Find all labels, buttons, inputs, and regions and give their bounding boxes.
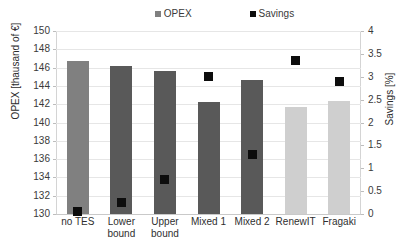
y-axis-right-tick-label: 2 xyxy=(368,118,408,128)
y-axis-left-tick xyxy=(53,159,56,160)
y-axis-left-tick-label: 132 xyxy=(10,191,50,201)
marker-savings[interactable] xyxy=(160,175,169,184)
y-axis-left-tick-label: 134 xyxy=(10,172,50,182)
x-axis-category-label: RenewIT xyxy=(274,216,318,228)
y-axis-right-tick-label: 0 xyxy=(368,209,408,219)
legend-swatch-savings xyxy=(250,11,256,17)
y-axis-left-tick xyxy=(53,68,56,69)
marker-savings[interactable] xyxy=(204,72,213,81)
y-axis-right-tick-label: 0.5 xyxy=(368,186,408,196)
marker-savings[interactable] xyxy=(117,198,126,207)
legend-item-opex[interactable]: OPEX xyxy=(155,9,192,19)
y-axis-left-tick-label: 146 xyxy=(10,63,50,73)
marker-savings[interactable] xyxy=(248,150,257,159)
y-axis-right-tick-label: 2.5 xyxy=(368,95,408,105)
bar-opex[interactable] xyxy=(67,61,89,214)
y-axis-left-tick xyxy=(53,123,56,124)
marker-savings[interactable] xyxy=(291,56,300,65)
bar-opex[interactable] xyxy=(328,101,350,214)
y-axis-right-tick xyxy=(361,145,364,146)
y-axis-left-tick-label: 136 xyxy=(10,154,50,164)
bar-opex[interactable] xyxy=(198,102,220,214)
y-axis-left-tick xyxy=(53,141,56,142)
y-axis-right-tick xyxy=(361,123,364,124)
y-axis-left-tick-label: 142 xyxy=(10,99,50,109)
y-axis-left-tick-label: 140 xyxy=(10,118,50,128)
marker-savings[interactable] xyxy=(335,77,344,86)
y-axis-left-tick-label: 144 xyxy=(10,81,50,91)
legend-item-savings[interactable]: Savings xyxy=(250,9,295,19)
y-axis-right-tick-label: 3.5 xyxy=(368,49,408,59)
bar-opex[interactable] xyxy=(285,107,307,214)
y-axis-right-tick xyxy=(361,31,364,32)
chart-container: OPEX Savings OPEX [thausand of €] Saving… xyxy=(0,0,415,250)
x-axis-category-label: Fragaki xyxy=(317,216,361,228)
marker-savings[interactable] xyxy=(73,207,82,216)
y-axis-right-tick xyxy=(361,100,364,101)
y-axis-left-tick-label: 130 xyxy=(10,209,50,219)
y-axis-right-tick xyxy=(361,77,364,78)
bar-opex[interactable] xyxy=(154,71,176,214)
y-axis-left-tick xyxy=(53,104,56,105)
y-axis-right-tick xyxy=(361,168,364,169)
plot-area: 150148146144142140138136134132130 43.532… xyxy=(56,31,361,214)
y-axis-left-tick-label: 138 xyxy=(10,136,50,146)
legend-swatch-opex xyxy=(155,11,161,17)
y-axis-right-tick-label: 1.5 xyxy=(368,140,408,150)
y-axis-left-title: OPEX [thausand of €] xyxy=(9,0,23,154)
x-axis-category-label: Lower bound xyxy=(100,216,144,240)
y-axis-right-tick-label: 4 xyxy=(368,26,408,36)
bar-opex[interactable] xyxy=(241,80,263,215)
x-axis-baseline xyxy=(56,214,361,215)
chart-legend: OPEX Savings xyxy=(0,6,415,22)
y-axis-right-tick xyxy=(361,214,364,215)
bar-opex[interactable] xyxy=(110,66,132,214)
y-axis-right-tick xyxy=(361,191,364,192)
gridline xyxy=(56,49,361,50)
gridline xyxy=(56,86,361,87)
x-axis-category-label: Upper bound xyxy=(143,216,187,240)
gridline xyxy=(56,31,361,32)
y-axis-left-tick-label: 148 xyxy=(10,44,50,54)
y-axis-right-tick-label: 1 xyxy=(368,163,408,173)
y-axis-left-tick xyxy=(53,214,56,215)
y-axis-right-tick xyxy=(361,54,364,55)
y-axis-left-tick xyxy=(53,31,56,32)
y-axis-left-tick xyxy=(53,177,56,178)
legend-label-savings: Savings xyxy=(259,9,295,19)
y-axis-left-tick xyxy=(53,196,56,197)
y-axis-right-tick-label: 3 xyxy=(368,72,408,82)
x-axis-category-labels: no TESLower boundUpper boundMixed 1Mixed… xyxy=(56,216,361,248)
gridline xyxy=(56,68,361,69)
x-axis-category-label: Mixed 1 xyxy=(187,216,231,228)
x-axis-category-label: no TES xyxy=(56,216,100,228)
y-axis-left-tick xyxy=(53,49,56,50)
y-axis-left-tick-label: 150 xyxy=(10,26,50,36)
y-axis-left-tick xyxy=(53,86,56,87)
x-axis-category-label: Mixed 2 xyxy=(230,216,274,228)
legend-label-opex: OPEX xyxy=(164,9,192,19)
